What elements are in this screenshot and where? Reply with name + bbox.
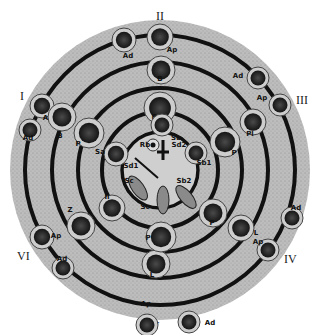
cell-nucleus [244, 113, 262, 131]
cell-label: Ap [51, 232, 61, 240]
cell-nucleus [273, 98, 288, 113]
cell-label: P [75, 140, 80, 148]
cell-label: Sb1 [197, 159, 212, 167]
cell-label: P [145, 234, 150, 242]
cell-label: Sc [140, 203, 149, 211]
cell-label: Ad [23, 134, 33, 142]
cell-nucleus [151, 28, 169, 46]
cell-nucleus [251, 71, 266, 86]
cell-label: Rb [140, 141, 150, 149]
cell-nucleus [52, 107, 71, 126]
cell-nucleus [103, 199, 121, 217]
cell-ad [178, 311, 200, 333]
cell-ii [99, 195, 125, 221]
cell-label: B [57, 132, 62, 140]
cell-l [228, 215, 254, 241]
residual-body-dot [151, 143, 156, 148]
cell-sc [157, 186, 169, 214]
stage-label-VI: VI [17, 249, 30, 263]
cell-label: Sb2 [177, 177, 192, 185]
stage-label-IV: IV [284, 252, 297, 266]
stage-label-I: I [20, 89, 24, 103]
cell-shape [157, 186, 169, 214]
cell-ap [269, 94, 291, 116]
cell-label: P [231, 149, 236, 157]
cell-nucleus [116, 32, 132, 48]
cell-ad [247, 67, 269, 89]
cell-nucleus [232, 219, 250, 237]
cell-label: Ad [291, 204, 301, 212]
cell-label: Ad [57, 255, 67, 263]
cell-label: P [209, 219, 214, 227]
stage-label-II: II [156, 9, 164, 23]
cell-nucleus [79, 123, 99, 143]
cell-label: Ad [123, 52, 133, 60]
cell-nucleus [71, 216, 90, 235]
cell-label: Ap [257, 94, 267, 102]
cell-label: B [157, 75, 162, 83]
cell-label: Z [67, 206, 72, 214]
cell-label: L [150, 271, 155, 279]
cell-z [67, 212, 95, 240]
cell-nucleus [182, 315, 197, 330]
cell-nucleus [34, 98, 50, 114]
cell-sa [151, 114, 173, 136]
cell-label: Sd2 [172, 141, 187, 149]
cell-label: Ad [233, 72, 243, 80]
cell-label: L [254, 229, 259, 237]
cell-label: Ap [141, 300, 151, 308]
cell-label: Ad [205, 319, 215, 327]
cell-label: Ap [167, 46, 177, 54]
cell-label: Sc [124, 177, 133, 185]
cell-ap [136, 314, 158, 335]
cell-label: Sa [95, 148, 105, 156]
cell-nucleus [108, 146, 124, 162]
cell-label: Pl [246, 130, 254, 138]
cell-label: Ap [253, 238, 263, 246]
cell-nucleus [34, 229, 50, 245]
cell-ad [112, 28, 136, 52]
stage-label-III: III [296, 93, 308, 107]
cell-l [142, 250, 170, 278]
cell-label: II [104, 193, 109, 201]
cell-label: Sd1 [124, 162, 139, 170]
cell-nucleus [285, 211, 300, 226]
cell-nucleus [151, 227, 171, 247]
spermatogenic-cycle-diagram: I II III IV V VI AdApAdApAdApApAdApAdApA… [0, 0, 315, 335]
cell-b [48, 103, 76, 131]
cell-nucleus [155, 118, 170, 133]
cell-nucleus [140, 318, 155, 333]
